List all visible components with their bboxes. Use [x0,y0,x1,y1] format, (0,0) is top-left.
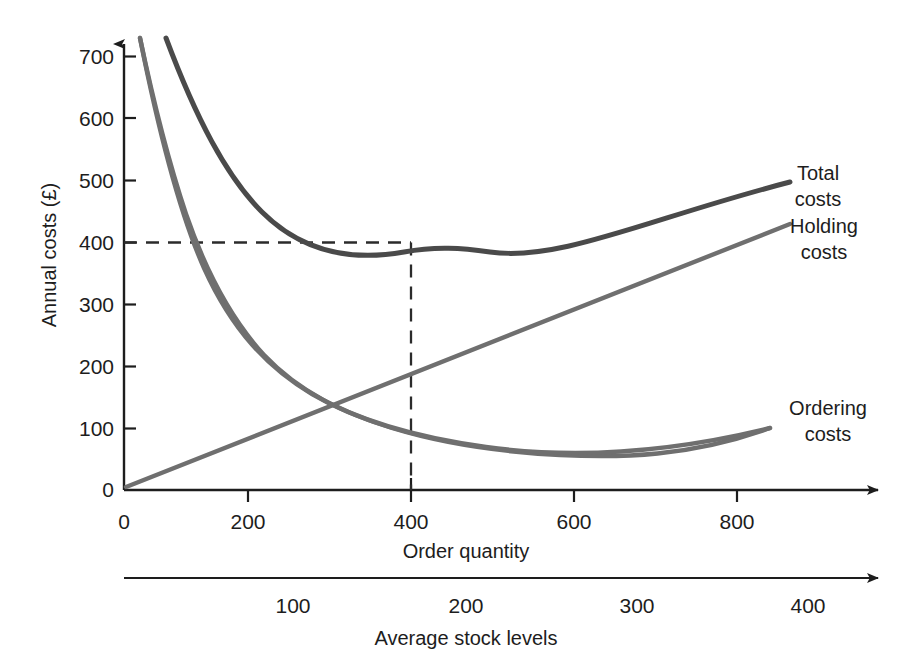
secondary-tick-label-400: 400 [790,594,825,617]
series-label-total-costs: Total costs [795,162,842,210]
holding-costs-label-line1: Holding [790,215,858,237]
x-tick-label-800: 800 [719,510,754,533]
eoq-cost-chart: 700 600 500 400 300 200 100 0 0 200 400 … [0,0,913,658]
holding-costs-label-line2: costs [801,241,848,263]
x-tick-label-200: 200 [230,510,265,533]
x-axis-tick-labels: 0 200 400 600 800 [118,510,754,533]
y-axis-title: Annual costs (£) [38,183,60,328]
y-tick-label-100: 100 [79,417,114,440]
total-costs-label-line2: costs [795,188,842,210]
secondary-tick-label-200: 200 [448,594,483,617]
y-tick-label-400: 400 [79,231,114,254]
total-costs-label-line1: Total [797,162,839,184]
x-tick-label-0: 0 [118,510,130,533]
y-tick-label-500: 500 [79,169,114,192]
total-costs-curve [166,38,790,255]
series-label-holding-costs: Holding costs [790,215,858,263]
ordering-costs-label-line2: costs [805,423,852,445]
series-label-ordering-costs: Ordering costs [789,397,867,445]
axes [124,44,878,578]
y-tick-label-700: 700 [79,45,114,68]
y-tick-label-0: 0 [102,478,114,501]
x-axis-title: Order quantity [403,540,530,562]
secondary-tick-label-300: 300 [619,594,654,617]
y-tick-label-200: 200 [79,355,114,378]
ordering-costs-curve-smooth [140,38,770,453]
y-tick-label-300: 300 [79,293,114,316]
eoq-guides [124,243,411,491]
series-curves [126,38,790,487]
secondary-axis-tick-labels: 100 200 300 400 [275,594,825,617]
secondary-tick-label-100: 100 [275,594,310,617]
ordering-costs-label-line1: Ordering [789,397,867,419]
x-tick-label-400: 400 [393,510,428,533]
secondary-axis-title: Average stock levels [374,627,557,649]
x-tick-label-600: 600 [556,510,591,533]
y-axis-tick-labels: 700 600 500 400 300 200 100 0 [79,45,114,501]
y-tick-label-600: 600 [79,107,114,130]
